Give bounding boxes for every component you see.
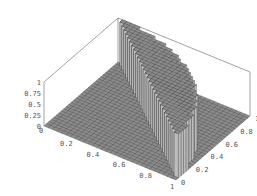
surface-wall [174,132,178,178]
y-tick-label: 0.4 [211,153,224,161]
surface-wall [189,117,191,163]
y-tick-label: 0.8 [240,128,253,136]
z-tick-label: 0 [37,123,41,131]
surface-wall [178,132,180,178]
surface-wall [183,127,185,173]
surface-wall [186,125,188,171]
y-tick-label: 0.6 [225,141,238,149]
surface-wall [194,107,196,153]
z-tick-label: 0.5 [28,101,41,109]
y-tick-label: 0.2 [196,166,209,174]
z-tick-label: 0.75 [24,90,41,98]
x-tick-label: 0.4 [86,151,99,159]
x-tick-label: 1 [170,183,174,191]
x-tick-label: 0.6 [113,161,126,169]
surface-wall [191,115,193,161]
surface-plot-3d: 00.20.40.60.8100.20.40.60.8100.250.50.75… [0,0,257,196]
y-tick-label: 0 [181,179,185,187]
y-tick-label: 1 [255,115,257,123]
x-tick-label: 0.8 [139,172,152,180]
z-tick-label: 0.25 [24,112,41,120]
z-tick-label: 1 [37,79,41,87]
surface-wall [181,130,183,176]
x-tick-label: 0.2 [60,140,73,148]
